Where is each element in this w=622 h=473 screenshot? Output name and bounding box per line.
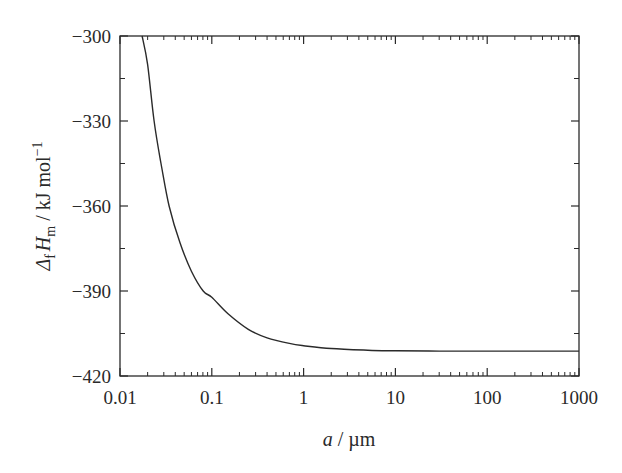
x-tick-labels: 0.010.11101001000: [103, 387, 598, 408]
plot-frame: [120, 36, 579, 376]
chart: −300−330−360−390−420 0.010.11101001000 a…: [0, 0, 622, 473]
major-ticks: [120, 36, 579, 376]
x-tick-label: 0.1: [200, 387, 224, 408]
x-tick-label: 1000: [560, 387, 598, 408]
data-line: [142, 36, 579, 351]
x-tick-label: 1: [299, 387, 309, 408]
y-tick-label: −390: [72, 281, 111, 302]
y-tick-label: −360: [72, 196, 111, 217]
minor-ticks: [120, 36, 579, 376]
y-tick-label: −300: [72, 26, 111, 47]
y-axis-label: ΔfHm / kJ mol−1: [30, 141, 58, 271]
x-tick-label: 0.01: [103, 387, 136, 408]
y-tick-label: −330: [72, 111, 111, 132]
x-tick-label: 100: [473, 387, 502, 408]
y-tick-label: −420: [72, 366, 111, 387]
x-tick-label: 10: [386, 387, 405, 408]
x-axis-label: a / µm: [323, 428, 376, 451]
y-tick-labels: −300−330−360−390−420: [72, 26, 111, 387]
